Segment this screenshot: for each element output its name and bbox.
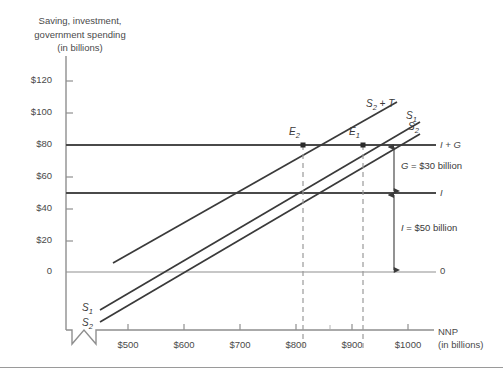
figure-bottom-rule xyxy=(0,367,503,368)
equilibrium-marker-e2 xyxy=(301,143,306,148)
chart-plot-svg xyxy=(0,0,503,378)
economics-chart-figure: Saving, investment, government spending … xyxy=(0,0,503,378)
curve-s2-plus-t xyxy=(113,102,397,263)
curve-s1 xyxy=(100,122,420,310)
curve-s2 xyxy=(100,134,420,322)
x-axis-line-with-break xyxy=(66,330,434,344)
equilibrium-marker-e1 xyxy=(361,143,366,148)
